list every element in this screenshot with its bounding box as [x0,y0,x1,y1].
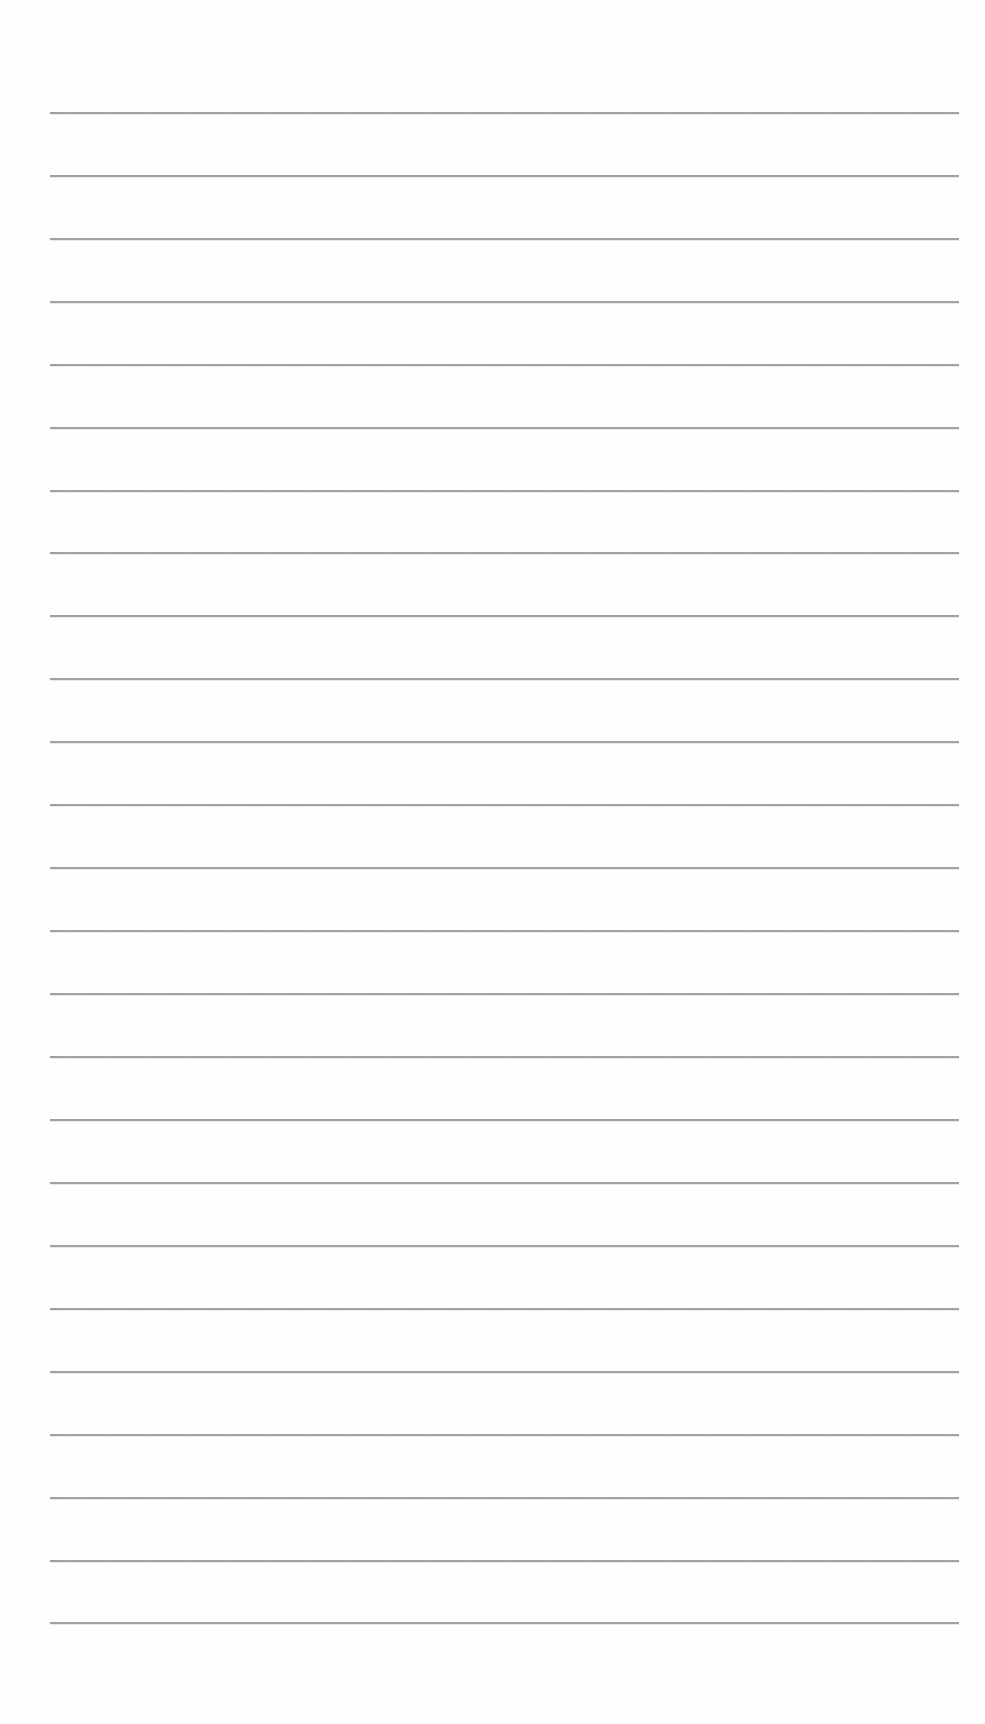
ruled-line [50,741,959,743]
ruled-line [50,1308,959,1310]
ruled-line [50,1371,959,1373]
ruled-line [50,678,959,680]
ruled-line [50,1497,959,1499]
ruled-line [50,867,959,869]
ruled-line [50,1182,959,1184]
ruled-line [50,175,959,177]
ruled-line [50,1434,959,1436]
ruled-line [50,301,959,303]
ruled-line [50,364,959,366]
ruled-paper-sheet [0,0,985,1724]
ruled-line [50,930,959,932]
ruled-line [50,238,959,240]
ruled-line [50,1622,959,1624]
ruled-line [50,1245,959,1247]
ruled-line [50,490,959,492]
ruled-line [50,615,959,617]
ruled-line [50,427,959,429]
ruled-line [50,804,959,806]
ruled-line [50,1119,959,1121]
ruled-line [50,1056,959,1058]
ruled-line [50,552,959,554]
ruled-line [50,1560,959,1562]
ruled-line [50,993,959,995]
ruled-line [50,112,959,114]
